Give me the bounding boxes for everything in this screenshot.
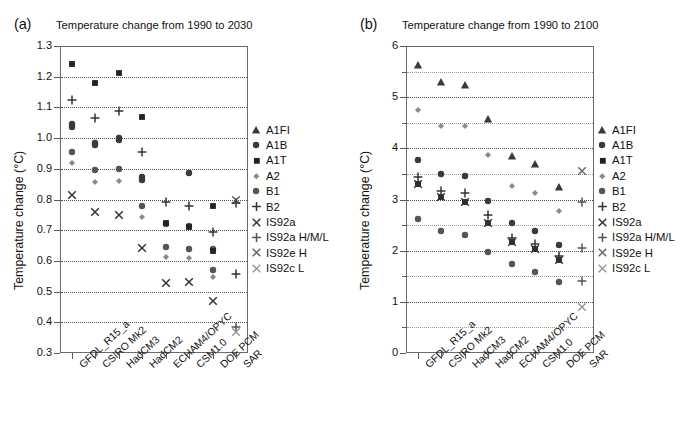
legend-label: B1 [266,185,280,197]
x-axis-tick [119,353,120,359]
y-axis-minor-tick [402,225,406,226]
y-axis-tick-label: 5 [354,90,398,102]
legend-row-is92a: IS92a [596,214,675,229]
y-axis-tick-label: 0.8 [8,193,52,205]
y-axis-tick-label: 1.0 [8,131,52,143]
panel-b-plot-area [406,46,594,353]
legend-label: B2 [266,201,280,213]
panel-b-y-axis-title: Temperature change (°C) [358,151,372,290]
legend-label: IS92c L [266,262,304,274]
square-icon [596,156,609,166]
legend-row-b1: B1 [250,184,329,199]
legend-row-is92e-h: IS92e H [250,245,329,260]
y-axis-tick-label: 0.3 [8,346,52,358]
y-axis-tick [54,77,60,78]
legend-label: A1FI [612,124,636,136]
y-axis-minor-tick [402,123,406,124]
plus-icon [250,232,263,243]
legend-label: A2 [266,170,280,182]
gridline-minor [407,174,593,175]
gridline-major [61,169,247,170]
legend-row-a2: A2 [250,168,329,183]
x-axis-tick [418,353,419,359]
legend-row-a1b: A1B [596,137,675,152]
x-axis-tick [582,353,583,359]
y-axis-tick-label: 0.7 [8,223,52,235]
legend-label: IS92e H [266,247,307,259]
cross-icon [250,263,263,274]
legend-label: B1 [612,185,626,197]
y-axis-tick-label: 1.2 [8,70,52,82]
legend-row-b2: B2 [250,199,329,214]
y-axis-tick [54,292,60,293]
triangle-up-icon [250,125,263,135]
legend-row-a1t: A1T [596,153,675,168]
y-axis-tick [400,302,406,303]
x-axis-tick [95,353,96,359]
gridline-major [407,97,593,98]
legend-label: IS92a H/M/L [266,231,329,243]
legend-label: A1T [266,154,287,166]
x-axis-tick [488,353,489,359]
y-axis-tick [400,200,406,201]
y-axis-tick [400,46,406,47]
legend-row-b2: B2 [596,199,675,214]
gridline-major [61,261,247,262]
panel-a: (a) Temperature change from 1990 to 2030… [0,0,347,437]
y-axis-tick-label: 2 [354,244,398,256]
gridline-major [61,230,247,231]
legend-row-b1: B1 [596,184,675,199]
gridline-major [61,107,247,108]
legend-row-is92a: IS92a [250,214,329,229]
y-axis-tick [54,138,60,139]
legend-label: IS92e H [612,247,653,259]
gridline-major [61,77,247,78]
gridline-major [407,251,593,252]
y-axis-tick [54,322,60,323]
legend-label: A2 [612,170,626,182]
gridline-minor [407,123,593,124]
x-axis-tick [512,353,513,359]
gridline-major [61,200,247,201]
x-axis-tick [559,353,560,359]
diamond-icon [250,172,263,181]
gridline-major [407,302,593,303]
circle-icon [596,140,609,150]
legend-label: A1B [612,139,633,151]
y-axis-tick-label: 1.3 [8,39,52,51]
legend-row-is92c-l: IS92c L [250,261,329,276]
legend-row-a1b: A1B [250,137,329,152]
x-axis-tick [535,353,536,359]
y-axis-tick-label: 0.6 [8,254,52,266]
legend-row-is92a-h-m-l: IS92a H/M/L [250,230,329,245]
plus-icon [596,201,609,212]
cross-icon [596,217,609,228]
plus-icon [596,232,609,243]
y-axis-minor-tick [402,174,406,175]
cross-icon [250,247,263,258]
legend-label: IS92c L [612,262,650,274]
y-axis-tick-label: 0.4 [8,315,52,327]
diamond-icon [596,172,609,181]
y-axis-minor-tick [402,327,406,328]
y-axis-tick-label: 3 [354,193,398,205]
y-axis-tick [54,107,60,108]
y-axis-tick [54,353,60,354]
gridline-major [407,148,593,149]
y-axis-tick-label: 4 [354,141,398,153]
legend-row-a1fi: A1FI [250,122,329,137]
legend-row-is92a-h-m-l: IS92a H/M/L [596,230,675,245]
x-axis-tick [142,353,143,359]
y-axis-tick [54,200,60,201]
gridline-major [407,200,593,201]
legend-label: B2 [612,201,626,213]
gridline-minor [407,72,593,73]
legend-row-is92c-l: IS92c L [596,261,675,276]
gridline-major [61,138,247,139]
panel-b-legend: A1FIA1BA1TA2B1B2IS92aIS92a H/M/LIS92e HI… [596,122,675,276]
x-axis-tick [213,353,214,359]
legend-row-a1fi: A1FI [596,122,675,137]
gridline-major [61,292,247,293]
y-axis-tick-label: 0.5 [8,285,52,297]
legend-label: A1B [266,139,287,151]
